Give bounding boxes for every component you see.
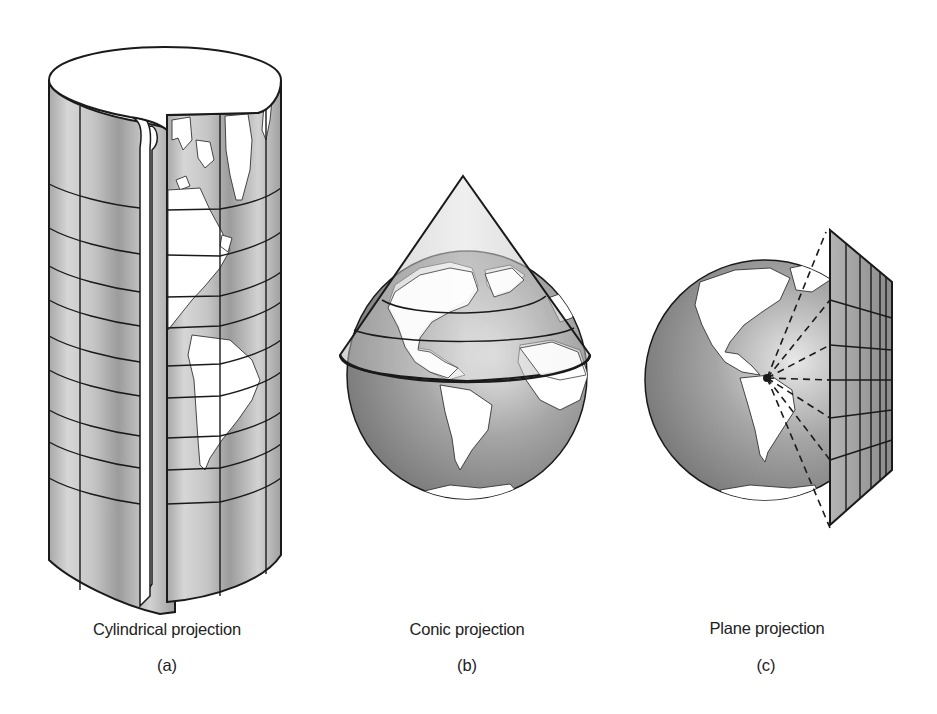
label-b: (b): [457, 656, 477, 675]
cylindrical-projection-illustration: [49, 47, 281, 614]
plane-projection-illustration: [645, 230, 892, 528]
map-projections-diagram: [0, 0, 937, 714]
caption-conic: Conic projection: [409, 620, 524, 639]
cylinder-left-sheet: [49, 80, 175, 614]
label-c: (c): [756, 656, 775, 675]
label-a: (a): [157, 656, 177, 675]
caption-plane: Plane projection: [709, 619, 824, 638]
caption-cylindrical: Cylindrical projection: [93, 620, 241, 639]
projection-plane: [830, 230, 892, 525]
conic-projection-illustration: [340, 176, 590, 505]
